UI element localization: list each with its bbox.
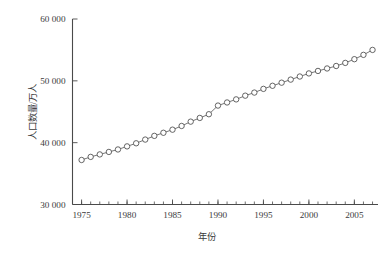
data-point-marker: [224, 100, 229, 105]
data-point-marker: [179, 123, 184, 128]
population-line-chart: 30 00040 00050 00060 000 197519801985199…: [0, 0, 388, 263]
data-point-marker: [233, 97, 238, 102]
data-point-marker: [270, 83, 275, 88]
data-point-marker: [79, 157, 84, 162]
x-tick-label: 2005: [345, 210, 364, 220]
data-point-marker: [88, 154, 93, 159]
x-tick-label: 1980: [118, 210, 137, 220]
x-tick-label: 2000: [300, 210, 319, 220]
data-point-marker: [161, 130, 166, 135]
data-point-marker: [315, 68, 320, 73]
y-tick-label: 30 000: [40, 200, 66, 210]
data-point-marker: [124, 144, 129, 149]
x-tick-label: 1995: [254, 210, 273, 220]
data-point-marker: [197, 115, 202, 120]
y-tick-label: 50 000: [40, 76, 66, 86]
y-tick-label: 40 000: [40, 138, 66, 148]
data-point-marker: [361, 52, 366, 57]
x-tick-label: 1990: [209, 210, 228, 220]
y-axis-title: 人口数量/万人: [27, 83, 38, 141]
data-point-marker: [152, 133, 157, 138]
data-point-marker: [143, 137, 148, 142]
data-point-marker: [97, 152, 102, 157]
x-tick-label: 1985: [163, 210, 182, 220]
y-tick-label-group: 30 00040 00050 00060 000: [40, 14, 66, 210]
x-major-tick-group: [82, 200, 355, 205]
data-point-marker: [343, 60, 348, 65]
x-tick-label: 1975: [72, 210, 91, 220]
data-point-marker: [252, 90, 257, 95]
data-point-marker: [306, 71, 311, 76]
data-point-marker: [188, 119, 193, 124]
data-point-marker: [133, 141, 138, 146]
data-point-marker: [261, 86, 266, 91]
y-tick-label: 60 000: [40, 14, 66, 24]
data-point-marker: [279, 80, 284, 85]
data-point-marker: [243, 93, 248, 98]
data-point-marker: [370, 47, 375, 52]
chart-canvas: 30 00040 00050 00060 000 197519801985199…: [0, 0, 388, 263]
series-marker-group: [79, 47, 375, 162]
data-point-marker: [115, 147, 120, 152]
data-point-marker: [352, 56, 357, 61]
y-tick-group: [73, 19, 78, 205]
data-point-marker: [170, 127, 175, 132]
data-point-marker: [288, 77, 293, 82]
x-axis-title: 年份: [198, 231, 217, 242]
x-tick-label-group: 1975198019851990199520002005: [72, 210, 364, 220]
data-point-marker: [333, 63, 338, 68]
data-point-marker: [215, 103, 220, 108]
data-point-marker: [297, 74, 302, 79]
data-point-marker: [324, 66, 329, 71]
data-point-marker: [106, 149, 111, 154]
data-point-marker: [206, 112, 211, 117]
